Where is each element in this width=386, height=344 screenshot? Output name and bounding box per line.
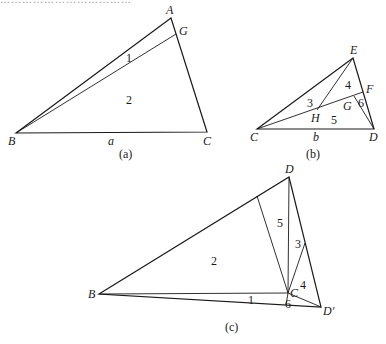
region-label-1: 1 xyxy=(126,51,132,65)
vertex-label-c: C xyxy=(250,130,259,144)
region-label-5: 5 xyxy=(277,216,283,230)
vertex-label-b: B xyxy=(88,287,96,301)
side-label-b: b xyxy=(313,130,319,144)
geometry-figures: A G B C a 1 2 (a) E F G H C D b 3 4 5 6 … xyxy=(0,0,386,344)
caption-b: (b) xyxy=(306,147,320,161)
vertex-label-c: C xyxy=(203,134,212,148)
caption-c: (c) xyxy=(225,320,238,334)
vertex-label-d-prime: D′ xyxy=(322,304,335,318)
region-label-4: 4 xyxy=(300,278,306,292)
region-label-3: 3 xyxy=(295,237,301,251)
segment-bc xyxy=(99,293,288,294)
vertex-label-d: D xyxy=(284,162,294,176)
vertex-label-c: C xyxy=(290,286,299,300)
vertex-label-g: G xyxy=(343,99,352,113)
figure-c: D B C D′ 2 5 3 4 1 6 (c) xyxy=(88,162,335,334)
vertex-label-h: H xyxy=(310,111,321,125)
segment-bg xyxy=(16,34,176,133)
vertex-label-g: G xyxy=(179,24,188,38)
region-label-4: 4 xyxy=(345,78,351,92)
side-label-a: a xyxy=(108,134,114,148)
vertex-label-b: B xyxy=(8,134,16,148)
region-label-2: 2 xyxy=(126,93,132,107)
caption-a: (a) xyxy=(119,147,132,161)
vertex-label-f: F xyxy=(365,82,374,96)
segment-gd xyxy=(354,96,374,129)
region-label-5: 5 xyxy=(331,113,337,127)
region-label-3: 3 xyxy=(307,96,313,110)
vertex-label-d: D xyxy=(368,130,378,144)
region-label-1: 1 xyxy=(248,293,254,307)
vertex-label-e: E xyxy=(349,43,358,57)
segment-dc xyxy=(288,177,289,293)
segment-pc xyxy=(257,196,288,293)
figure-b: E F G H C D b 3 4 5 6 (b) xyxy=(250,43,378,161)
region-label-6: 6 xyxy=(358,96,364,110)
region-label-6: 6 xyxy=(285,297,291,311)
vertex-label-a: A xyxy=(165,3,174,17)
figure-a: A G B C a 1 2 (a) xyxy=(8,3,212,161)
region-label-2: 2 xyxy=(211,254,217,268)
